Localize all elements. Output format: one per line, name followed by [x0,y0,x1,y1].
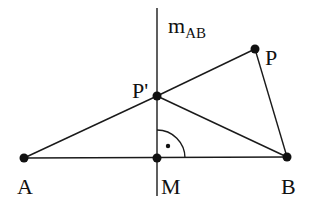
diagram-canvas: A B M P P' mAB [0,0,313,218]
label-P: P [265,45,277,70]
point-M [153,154,162,163]
right-angle-dot [166,144,170,148]
point-Pprime [153,92,162,101]
segment-PprimeP [157,49,255,96]
label-A: A [17,174,33,199]
segment-PprimeB [157,96,287,157]
label-Pprime: P' [132,78,148,103]
right-angle-arc [157,130,185,158]
label-B: B [281,174,296,199]
point-A [20,154,29,163]
label-M: M [161,174,181,199]
segment-APprime [24,96,157,158]
point-P [251,45,260,54]
label-bisector-subscript: AB [185,25,206,41]
label-bisector: mAB [168,13,206,41]
point-B [283,153,292,162]
label-bisector-main: m [168,13,185,38]
